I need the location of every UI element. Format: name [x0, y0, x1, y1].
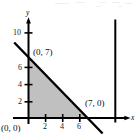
point-label-x-intercept: (7, 0): [85, 99, 105, 108]
y-tick-label-2: 2: [18, 98, 22, 106]
point-label-origin: (0, 0): [1, 124, 21, 133]
x-tick-label-4: 4: [60, 123, 64, 131]
y-axis-arrow-icon: [26, 17, 31, 23]
boundary-line: [14, 43, 102, 134]
x-tick-label-2: 2: [43, 123, 47, 131]
y-tick-label-4: 4: [18, 81, 22, 89]
x-axis-arrow-icon: [124, 116, 130, 121]
y-tick-label-6: 6: [18, 64, 22, 72]
point-label-y-intercept: (0, 7): [33, 48, 53, 57]
y-axis-label: y: [26, 9, 29, 17]
x-axis-label: x: [131, 114, 134, 122]
x-tick-label-6: 6: [77, 123, 81, 131]
y-tick-label-10: 10: [13, 29, 21, 37]
graph-figure: 10 6 4 2 2 4 6 y x (0, 7) (7, 0) (0, 0): [0, 0, 138, 138]
